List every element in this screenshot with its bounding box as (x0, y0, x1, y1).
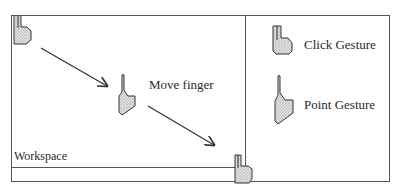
legend-point-gesture-label: Point Gesture (304, 97, 375, 113)
arrow-icon (148, 106, 214, 145)
point-gesture-hand-icon (273, 75, 297, 125)
move-finger-label: Move finger (149, 77, 214, 93)
legend-click-gesture-label: Click Gesture (304, 37, 376, 53)
click-gesture-hand-icon (272, 25, 294, 55)
point-gesture-hand-icon (117, 74, 141, 116)
arrow-icon (41, 48, 107, 86)
click-gesture-hand-icon (234, 154, 254, 184)
click-gesture-hand-icon (12, 16, 34, 48)
